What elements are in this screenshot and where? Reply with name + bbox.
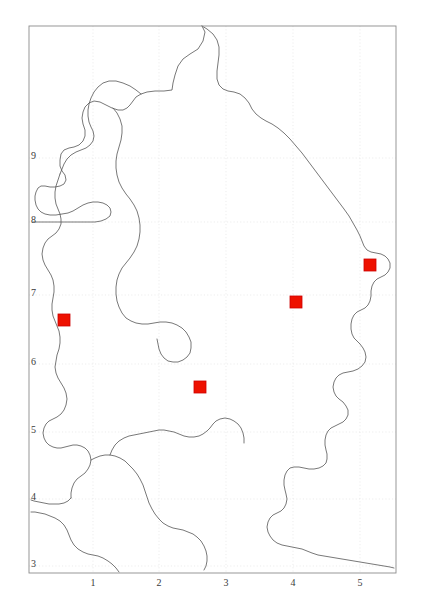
x-tick-label-2: 2 <box>152 578 166 588</box>
distribution-map-figure <box>0 0 424 612</box>
y-tick-label-8: 8 <box>31 215 36 225</box>
y-tick-label-4: 4 <box>31 492 36 502</box>
y-tick-label-5: 5 <box>31 425 36 435</box>
figure-background <box>0 0 424 612</box>
y-tick-label-6: 6 <box>31 357 36 367</box>
occurrence-marker <box>290 296 302 308</box>
x-tick-label-5: 5 <box>353 578 367 588</box>
x-tick-label-3: 3 <box>219 578 233 588</box>
occurrence-marker <box>58 314 70 326</box>
occurrence-marker <box>194 381 206 393</box>
y-tick-label-7: 7 <box>31 288 36 298</box>
y-tick-label-3: 3 <box>31 559 36 569</box>
map-page: 9 8 7 6 5 4 3 1 2 3 4 5 <box>0 0 424 612</box>
x-tick-label-1: 1 <box>86 578 100 588</box>
x-tick-label-4: 4 <box>286 578 300 588</box>
y-tick-label-9: 9 <box>31 151 36 161</box>
occurrence-marker <box>364 259 376 271</box>
